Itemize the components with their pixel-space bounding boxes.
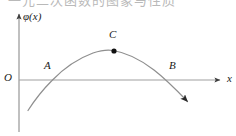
point-b-label: B	[169, 60, 176, 71]
y-axis-label: φ(x)	[23, 11, 41, 22]
point-c-marker	[111, 48, 116, 53]
axes-group	[19, 14, 220, 132]
origin-label: O	[4, 72, 12, 83]
marked-points-group	[111, 48, 116, 53]
point-a-label: A	[44, 60, 51, 71]
point-c-label: C	[109, 29, 116, 40]
x-axis-label: x	[227, 73, 232, 84]
figure-container: 一元二次函数的图象与性质 φ(x) O x A C B	[0, 0, 236, 136]
